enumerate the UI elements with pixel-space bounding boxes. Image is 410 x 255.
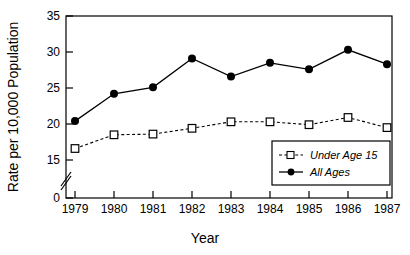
y-tick-label-30: 30 [47,45,61,59]
x-tick-labels: 1979 1980 1981 1982 1983 1984 1985 1986 … [62,202,401,216]
data-point-open-square [149,130,157,138]
data-point-open-square [227,118,235,126]
chart-figure: 35 30 25 20 15 0 1979 1980 1981 1982 198… [0,0,410,255]
data-point-filled-circle [344,46,352,54]
legend-box [272,141,390,185]
y-tick-label-15: 15 [47,153,61,167]
x-tick-label-1980: 1980 [101,202,128,216]
data-point-filled-circle [305,65,313,73]
x-tick-label-1985: 1985 [296,202,323,216]
data-point-filled-circle [71,117,79,125]
x-tick-label-1983: 1983 [218,202,245,216]
data-point-open-square [266,118,274,126]
legend-label-all-ages: All Ages [309,166,350,178]
legend-label-under-age-15: Under Age 15 [310,149,378,161]
data-point-filled-circle [383,60,391,68]
x-tick-label-1979: 1979 [62,202,89,216]
y-axis-title: Rate per 10,000 Population [5,22,21,192]
x-tick-label-1981: 1981 [140,202,167,216]
chart-legend: Under Age 15 All Ages [272,141,390,185]
x-tick-label-1986: 1986 [335,202,362,216]
x-tick-label-1984: 1984 [257,202,284,216]
data-point-open-square [188,125,196,133]
x-axis-title: Year [191,230,220,246]
x-tick-label-1982: 1982 [179,202,206,216]
data-point-filled-circle [227,73,235,81]
data-point-filled-circle [149,83,157,91]
y-tick-label-0: 0 [53,191,60,205]
data-point-open-square [71,145,79,153]
data-point-filled-circle [188,55,196,63]
data-point-open-square [305,121,313,129]
open-square-icon [287,152,294,159]
y-tick-label-20: 20 [47,117,61,131]
y-tick-label-35: 35 [47,9,61,23]
data-point-filled-circle [110,90,118,98]
data-point-open-square [110,131,118,139]
y-tick-labels: 35 30 25 20 15 0 [47,9,61,205]
data-point-filled-circle [266,59,274,67]
chart-canvas: 35 30 25 20 15 0 1979 1980 1981 1982 198… [0,0,410,255]
x-tick-label-1987: 1987 [374,202,401,216]
data-point-open-square [383,124,391,132]
y-tick-label-25: 25 [47,81,61,95]
filled-circle-icon [288,169,295,176]
data-point-open-square [344,114,352,122]
